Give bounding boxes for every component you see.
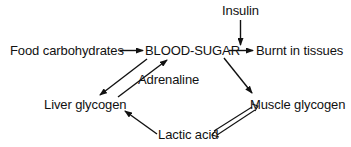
label-liver-glycogen: Liver glycogen — [44, 97, 126, 112]
label-muscle-glycogen: Muscle glycogen — [250, 97, 345, 112]
label-insulin: Insulin — [222, 3, 259, 18]
label-food-carbohydrates: Food carbohydrates — [10, 43, 124, 58]
label-burnt-in-tissues: Burnt in tissues — [256, 43, 343, 58]
label-lactic-acid: Lactic acid — [158, 127, 218, 142]
label-blood-sugar: BLOOD-SUGAR — [145, 43, 240, 58]
arrow-blood-sugar-to-muscle — [224, 58, 252, 93]
arrow-lactic-to-liver — [125, 111, 157, 134]
label-adrenaline: Adrenaline — [138, 72, 199, 87]
